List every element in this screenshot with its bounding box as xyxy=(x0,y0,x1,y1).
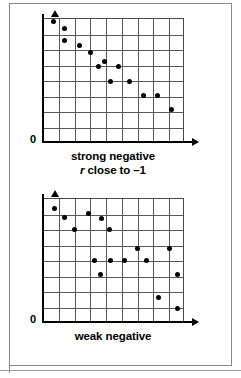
gridline-horizontal xyxy=(43,308,183,309)
gridline-vertical xyxy=(153,19,154,141)
scatter-point xyxy=(99,216,104,221)
scatter-point xyxy=(86,211,91,216)
gridline-horizontal xyxy=(43,35,183,36)
plot-area-weak-negative: 0 xyxy=(30,194,190,328)
y-axis-arrow-icon xyxy=(51,10,59,17)
gridline-vertical xyxy=(138,199,139,321)
origin-label-weak-negative: 0 xyxy=(30,313,36,325)
scatter-point xyxy=(108,258,113,263)
y-axis-weak-negative xyxy=(42,194,44,323)
frame-border-bottom xyxy=(9,365,232,366)
caption-weak-negative: weak negative xyxy=(30,330,196,344)
scatter-point xyxy=(169,107,174,112)
x-axis-strong-negative xyxy=(42,141,194,143)
scatter-panel-weak-negative: 0 weak negative xyxy=(30,194,190,328)
gridline-horizontal xyxy=(43,246,183,247)
caption-title-weak: weak negative xyxy=(75,330,152,342)
gridline-vertical xyxy=(90,199,91,321)
gridline-vertical xyxy=(153,199,154,321)
gridline-vertical xyxy=(59,19,60,141)
y-axis-strong-negative xyxy=(42,14,44,143)
scatter-point xyxy=(122,258,127,263)
scatter-point xyxy=(92,258,97,263)
caption-subtitle-strong: r close to –1 xyxy=(30,164,196,178)
caption-title-strong: strong negative xyxy=(71,150,155,162)
gridline-horizontal xyxy=(43,292,183,293)
gridline-vertical xyxy=(106,19,107,141)
gridline-vertical xyxy=(169,199,170,321)
x-axis-arrow-icon xyxy=(192,318,199,326)
scatter-point xyxy=(156,295,161,300)
gridline-vertical xyxy=(106,199,107,321)
gridline-vertical xyxy=(90,19,91,141)
gridline-vertical xyxy=(75,199,76,321)
scatter-point xyxy=(135,246,140,251)
gridline-horizontal xyxy=(43,261,183,262)
page-baseline-rule xyxy=(0,370,241,371)
gridline-vertical xyxy=(75,19,76,141)
x-axis-arrow-icon xyxy=(192,138,199,146)
scatter-point xyxy=(175,306,180,311)
gridline-vertical xyxy=(122,19,123,141)
scatter-point xyxy=(144,258,149,263)
caption-strong-negative: strong negative r close to –1 xyxy=(30,150,196,177)
gridline-horizontal xyxy=(43,112,183,113)
gridline-horizontal xyxy=(43,230,183,231)
scatter-panel-strong-negative: 0 strong negative r close to –1 xyxy=(30,14,190,148)
caption-r-rest: close to –1 xyxy=(84,164,145,176)
frame-border-top xyxy=(9,3,232,4)
gridline-vertical xyxy=(138,19,139,141)
x-axis-weak-negative xyxy=(42,321,194,323)
gridline-vertical xyxy=(59,199,60,321)
plot-area-strong-negative: 0 xyxy=(30,14,190,148)
scatter-point xyxy=(102,59,107,64)
gridline-horizontal xyxy=(43,128,183,129)
frame-border-right xyxy=(231,3,232,366)
gridline-horizontal xyxy=(43,97,183,98)
frame-border-left xyxy=(9,3,10,373)
origin-label-strong-negative: 0 xyxy=(30,133,36,145)
gridline-vertical xyxy=(169,19,170,141)
plot-grid-strong-negative xyxy=(42,18,184,142)
y-axis-arrow-icon xyxy=(51,190,59,197)
gridline-horizontal xyxy=(43,50,183,51)
figure-frame: 0 strong negative r close to –1 0 weak n… xyxy=(0,0,241,378)
scatter-point xyxy=(62,215,67,220)
scatter-point xyxy=(96,64,101,69)
gridline-horizontal xyxy=(43,66,183,67)
gridline-horizontal xyxy=(43,277,183,278)
